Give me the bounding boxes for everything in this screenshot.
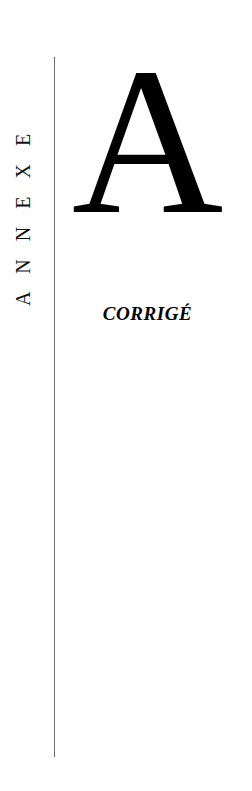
running-head: ANNEXE (0, 57, 46, 382)
annex-content: A CORRIGÉ (55, 0, 252, 791)
annex-subtitle: CORRIGÉ (55, 303, 240, 326)
running-head-label: ANNEXE (13, 115, 33, 323)
annex-divider-page: ANNEXE A CORRIGÉ (0, 0, 252, 791)
annex-letter: A (55, 36, 240, 246)
